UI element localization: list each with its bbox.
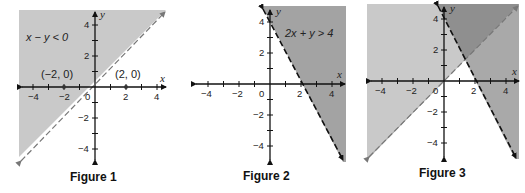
fig2-ytick: −4 xyxy=(253,140,264,151)
fig2-ytick: −2 xyxy=(253,109,264,120)
figures-canvas: −4 −2 0 2 4 4 2 −2 −4 x y x − y < 0 (−2,… xyxy=(0,0,525,193)
fig3-xtick: −2 xyxy=(406,85,417,96)
fig3-y-label: y xyxy=(449,2,455,14)
fig2-y-label: y xyxy=(275,5,281,17)
fig1-point-2 xyxy=(124,85,128,89)
fig3-xtick: 2 xyxy=(471,85,476,96)
figure-1-caption: Figure 1 xyxy=(70,170,117,184)
fig1-inequality-label: x − y < 0 xyxy=(25,31,69,43)
fig1-point-label: (2, 0) xyxy=(115,68,141,80)
fig2-inequality-label: 2x + y > 4 xyxy=(284,27,333,39)
fig2-xtick: −2 xyxy=(232,88,243,99)
fig2-xtick: 4 xyxy=(329,88,334,99)
fig1-xtick: 0 xyxy=(85,91,90,102)
fig2-ytick: 4 xyxy=(259,16,264,27)
fig1-ytick: −2 xyxy=(78,112,89,123)
fig2-ytick: 2 xyxy=(259,47,264,58)
fig1-ytick: −4 xyxy=(78,143,89,154)
fig3-xtick: −4 xyxy=(375,85,386,96)
fig1-point-neg2 xyxy=(62,85,66,89)
figure-2: −4 −2 0 2 4 4 2 −2 −4 x y 2x + y > 4 xyxy=(196,5,346,162)
fig3-xtick: 0 xyxy=(433,85,438,96)
fig3-ytick: −2 xyxy=(427,106,438,117)
fig2-xtick: 0 xyxy=(259,88,264,99)
fig3-ytick: −4 xyxy=(427,137,438,148)
fig3-x-label: x xyxy=(511,65,517,77)
fig1-ytick: 2 xyxy=(84,50,89,61)
fig3-ytick: 2 xyxy=(433,44,438,55)
fig1-ytick: 4 xyxy=(84,19,89,30)
figure-3: −4 −2 0 2 4 4 2 −2 −4 x y xyxy=(367,2,519,159)
figure-1: −4 −2 0 2 4 4 2 −2 −4 x y x − y < 0 (−2,… xyxy=(19,8,166,161)
fig1-xtick: −4 xyxy=(28,91,39,102)
figure-2-caption: Figure 2 xyxy=(243,169,290,183)
figure-3-caption: Figure 3 xyxy=(419,166,466,180)
fig2-xtick: −4 xyxy=(201,88,212,99)
fig1-point-label: (−2, 0) xyxy=(41,68,73,80)
fig3-ytick: 4 xyxy=(433,13,438,24)
fig2-xtick: 2 xyxy=(297,88,302,99)
fig1-y-label: y xyxy=(99,8,105,20)
fig1-xtick: 4 xyxy=(154,91,159,102)
fig1-xtick: 2 xyxy=(123,91,128,102)
fig3-xtick: 4 xyxy=(503,85,508,96)
fig1-x-label: x xyxy=(159,72,165,84)
fig1-xtick: −2 xyxy=(59,91,70,102)
fig2-x-label: x xyxy=(336,68,342,80)
